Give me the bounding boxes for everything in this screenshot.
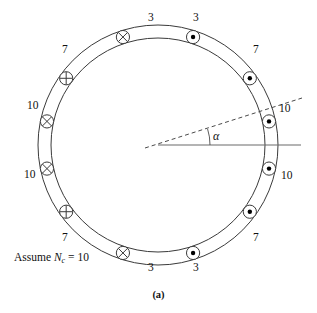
conductor-7-plus — [60, 205, 73, 218]
conductor-label: 3 — [193, 262, 199, 273]
conductor-7-dot — [243, 72, 256, 85]
assume-note: Assume Nc = 10 — [14, 251, 89, 265]
angle-arc — [208, 129, 210, 145]
conductor-label: 3 — [148, 262, 154, 273]
conductor-10-dot — [262, 162, 275, 175]
conductor-label: 7 — [62, 232, 68, 243]
conductor-3-dot — [186, 30, 199, 43]
conductor-3-cross — [116, 246, 129, 259]
current-out-dot-icon — [267, 119, 271, 123]
conductor-label: 3 — [148, 12, 154, 23]
current-out-dot-icon — [248, 76, 252, 80]
conductor-label: 10 — [27, 100, 39, 111]
conductor-7-dot — [243, 205, 256, 218]
conductor-label: 10 — [279, 103, 291, 114]
current-out-dot-icon — [191, 35, 195, 39]
current-out-dot-icon — [267, 166, 271, 170]
assume-prefix: Assume — [14, 251, 54, 263]
assume-symbol: N — [54, 251, 62, 263]
conductor-label: 7 — [253, 232, 259, 243]
figure-caption: (a) — [0, 289, 317, 300]
assume-equals: = 10 — [65, 251, 89, 263]
conductor-label: 3 — [193, 12, 199, 23]
conductor-label: 10 — [281, 170, 293, 181]
conductor-3-dot — [186, 246, 199, 259]
angle-alpha-label: α — [213, 129, 219, 144]
current-out-dot-icon — [248, 210, 252, 214]
armature-winding-diagram — [0, 0, 317, 313]
conductor-label: 10 — [24, 169, 36, 180]
conductor-10-cross — [40, 162, 53, 175]
current-out-dot-icon — [191, 251, 195, 255]
conductor-7-plus — [60, 72, 73, 85]
conductor-10-dot — [262, 115, 275, 128]
conductor-label: 7 — [253, 44, 259, 55]
conductor-label: 7 — [62, 44, 68, 55]
conductor-10-cross — [40, 115, 53, 128]
conductor-3-cross — [116, 30, 129, 43]
